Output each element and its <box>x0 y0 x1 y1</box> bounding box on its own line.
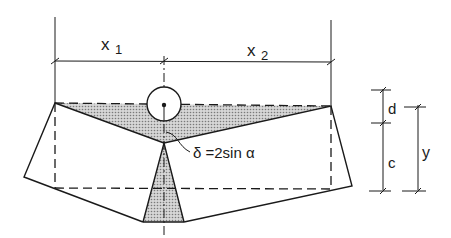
label-c: c <box>388 154 396 171</box>
formula-delta: δ =2sin α <box>193 144 255 161</box>
label-x1-sub: 1 <box>115 42 122 57</box>
structural-diagram: x 1 x 2 d c y δ =2sin α <box>0 0 451 238</box>
label-d: d <box>388 100 396 117</box>
bottom-dashed-line <box>55 188 331 189</box>
x-dimension-line <box>55 61 331 62</box>
label-y: y <box>422 144 430 161</box>
label-x2-sub: 2 <box>261 48 268 63</box>
label-x1: x <box>101 35 110 54</box>
label-x2: x <box>247 41 256 60</box>
